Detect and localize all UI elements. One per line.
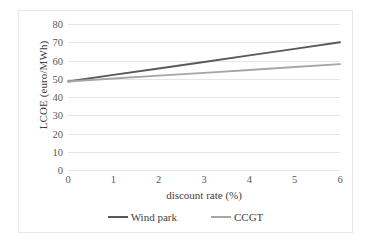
gridline — [68, 170, 340, 171]
legend-item-wind-park[interactable]: Wind park — [108, 211, 177, 223]
x-axis-tick-label: 2 — [156, 174, 161, 185]
plot-area — [68, 24, 340, 170]
y-axis-tick-label: 30 — [37, 110, 63, 121]
x-axis-tick-label: 3 — [201, 174, 206, 185]
y-axis-tick-label: 60 — [37, 55, 63, 66]
y-axis-tick-label: 40 — [37, 92, 63, 103]
y-axis-tick-label: 50 — [37, 73, 63, 84]
x-axis-tick-labels: 0123456 — [68, 174, 340, 188]
y-axis-tick-label: 10 — [37, 146, 63, 157]
chart-container: LCOE (euro/MWh) 01020304050607080 012345… — [18, 10, 353, 233]
series-line-wind-park — [68, 42, 340, 81]
chart-plot-wrapper: LCOE (euro/MWh) 01020304050607080 012345… — [19, 11, 352, 232]
y-axis-tick-label: 80 — [37, 19, 63, 30]
y-axis-tick-label: 20 — [37, 128, 63, 139]
legend-item-label: CCGT — [234, 211, 263, 223]
legend-item-label: Wind park — [131, 211, 177, 223]
series-line-ccgt — [68, 64, 340, 81]
legend-line-swatch-icon — [211, 216, 231, 218]
legend-item-ccgt[interactable]: CCGT — [211, 211, 263, 223]
x-axis-title: discount rate (%) — [68, 189, 340, 201]
series-lines — [68, 24, 340, 170]
x-axis-tick-label: 0 — [65, 174, 70, 185]
y-axis-tick-label: 0 — [37, 165, 63, 176]
y-axis-tick-label: 70 — [37, 37, 63, 48]
x-axis-tick-label: 6 — [337, 174, 342, 185]
x-axis-tick-label: 1 — [111, 174, 116, 185]
x-axis-tick-label: 5 — [292, 174, 297, 185]
x-axis-tick-label: 4 — [247, 174, 252, 185]
chart-legend: Wind parkCCGT — [19, 211, 352, 223]
y-axis-tick-labels: 01020304050607080 — [37, 24, 63, 170]
legend-line-swatch-icon — [108, 216, 128, 218]
